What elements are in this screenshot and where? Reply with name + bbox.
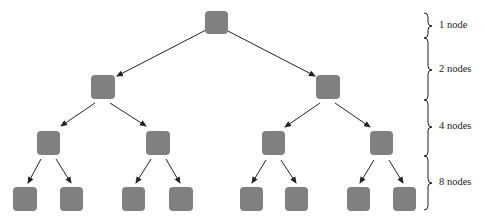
tree-node [60, 187, 83, 211]
tree-node [262, 131, 285, 155]
tree-node [205, 11, 228, 34]
tree-node [285, 187, 308, 211]
tree-node [240, 187, 263, 211]
tree-node [169, 187, 193, 211]
level-braces [424, 13, 432, 210]
tree-node [37, 131, 60, 155]
brace-icon [424, 38, 432, 100]
tree-node [146, 131, 170, 155]
tree-node [393, 187, 416, 211]
tree-node [13, 187, 37, 211]
tree-node [370, 131, 393, 155]
tree-node [122, 187, 145, 211]
tree-diagram [0, 0, 485, 222]
level-label-2: 2 nodes [439, 63, 471, 74]
tree-node [316, 75, 340, 99]
brace-icon [424, 13, 432, 38]
tree-node [347, 187, 370, 211]
nodes [13, 11, 416, 211]
level-label-4: 8 nodes [439, 176, 471, 187]
tree-node [91, 75, 115, 99]
level-label-3: 4 nodes [439, 120, 471, 131]
brace-icon [424, 100, 432, 156]
level-label-1: 1 node [439, 19, 467, 30]
edges [28, 30, 403, 183]
brace-icon [424, 156, 432, 210]
